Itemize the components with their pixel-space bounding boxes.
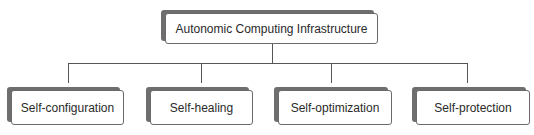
- root-node: Autonomic Computing Infrastructure: [165, 13, 378, 44]
- child-node-self-protection: Self-protection: [416, 90, 530, 125]
- child-connector-line: [331, 63, 332, 83]
- child-node-self-configuration: Self-configuration: [11, 90, 124, 125]
- child-node-label: Self-configuration: [21, 101, 114, 115]
- child-node-label: Self-optimization: [291, 101, 380, 115]
- child-connector-line: [201, 63, 202, 83]
- child-connector-line: [467, 63, 468, 83]
- root-node-label: Autonomic Computing Infrastructure: [175, 22, 367, 36]
- child-node-label: Self-healing: [170, 101, 233, 115]
- child-node-self-optimization: Self-optimization: [278, 90, 392, 125]
- child-node-self-healing: Self-healing: [150, 90, 253, 125]
- child-node-label: Self-protection: [434, 101, 511, 115]
- root-connector-line: [272, 44, 273, 63]
- child-connector-line: [68, 63, 69, 83]
- horizontal-connector-line: [68, 63, 468, 64]
